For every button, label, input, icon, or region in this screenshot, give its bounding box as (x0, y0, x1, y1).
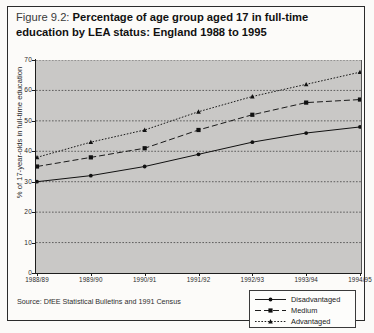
x-axis-tick-label: 1994/95 (338, 276, 374, 283)
legend-item: Disadvantaged (254, 294, 351, 305)
square-marker (36, 164, 39, 168)
legend-label: Disadvantaged (287, 295, 340, 304)
x-axis-tick-mark (145, 273, 146, 276)
circle-marker (358, 125, 361, 129)
triangle-marker (196, 109, 201, 113)
x-axis-tick-label: 1993/94 (284, 276, 328, 283)
triangle-marker (358, 70, 361, 74)
circle-marker (197, 152, 201, 156)
x-axis-tick-mark (91, 273, 92, 276)
square-marker (196, 128, 200, 132)
triangle-marker (304, 82, 309, 86)
x-axis-tick-label: 1988/89 (15, 276, 59, 283)
figure-caption-line-2: education by LEA status: England 1988 to… (16, 26, 267, 38)
circle-marker (36, 180, 39, 184)
y-axis-tick-mark (32, 151, 35, 152)
square-marker (89, 155, 93, 159)
square-marker (358, 97, 361, 101)
x-axis-tick-mark (360, 273, 361, 276)
x-axis-tick-label: 1991/92 (177, 276, 221, 283)
x-axis-tick-mark (252, 273, 253, 276)
figure-page: Figure 9.2: Percentage of age group aged… (0, 0, 374, 333)
figure-caption: Figure 9.2: Percentage of age group aged… (16, 10, 352, 40)
series-line (37, 72, 360, 157)
y-axis-tick-label: 20 (16, 208, 32, 215)
x-axis-tick-mark (37, 273, 38, 276)
circle-marker (89, 174, 93, 178)
y-axis-tick-mark (32, 212, 35, 213)
legend-item: Advantaged (254, 316, 351, 327)
circle-marker (269, 298, 273, 302)
legend-label: Medium (287, 306, 317, 315)
legend-line-sample (254, 305, 287, 316)
chart-canvas (36, 60, 361, 273)
y-axis-tick-mark (32, 121, 35, 122)
y-axis-tick-mark (32, 90, 35, 91)
x-axis-tick-label: 1992/93 (230, 276, 274, 283)
x-axis-tick-label: 1989/90 (69, 276, 113, 283)
triangle-marker (89, 140, 94, 144)
legend-line-sample (254, 294, 287, 305)
plot-wrapper (36, 60, 361, 273)
circle-marker (304, 131, 308, 135)
y-axis-line (35, 59, 36, 274)
square-marker (143, 146, 147, 150)
legend-label: Advantaged (287, 317, 330, 326)
chart-legend: DisadvantagedMediumAdvantaged (249, 290, 356, 328)
y-axis-tick-mark (32, 182, 35, 183)
source-note: Source: DfEE Statistical Bulletins and 1… (17, 297, 181, 306)
square-marker (268, 308, 272, 312)
y-axis-tick-mark (32, 273, 35, 274)
triangle-marker (36, 155, 39, 159)
x-axis-tick-mark (199, 273, 200, 276)
square-marker (304, 101, 308, 105)
y-axis-tick-mark (32, 243, 35, 244)
circle-marker (250, 140, 254, 144)
square-marker (250, 113, 254, 117)
y-axis-title: % of 17-year-olds in full-time education (15, 58, 24, 208)
figure-caption-line-1: Percentage of age group aged 17 in full-… (73, 11, 309, 23)
circle-marker (143, 165, 147, 169)
x-axis-tick-mark (306, 273, 307, 276)
x-axis-tick-label: 1990/91 (123, 276, 167, 283)
y-axis-tick-label: 10 (16, 239, 32, 246)
y-axis-tick-mark (32, 60, 35, 61)
y-axis-tick-label: 0 (16, 269, 32, 276)
legend-line-sample (254, 316, 287, 327)
legend-item: Medium (254, 305, 351, 316)
